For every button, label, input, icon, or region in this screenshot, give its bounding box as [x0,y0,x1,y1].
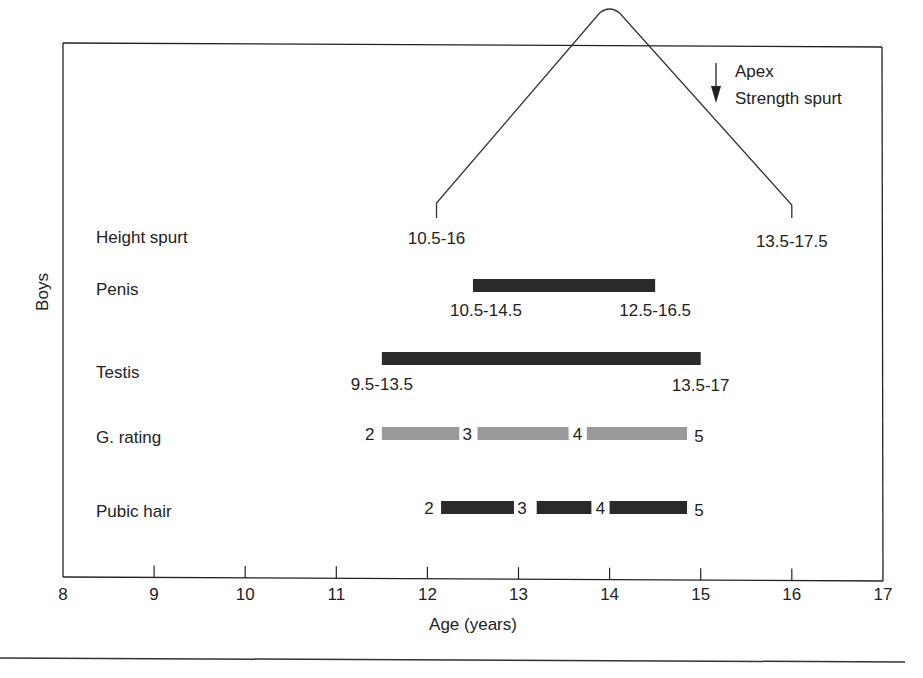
row-pubic-hair: Pubic hair2345 [96,499,704,521]
stage-label: 3 [463,425,472,444]
stage-label: 5 [694,501,703,520]
puberty-timeline-chart: 891011121314151617 Height spurt10.5-1613… [0,0,923,678]
x-axis-ticks: 891011121314151617 [58,565,892,604]
tick-label: 14 [600,585,619,604]
row-g-rating: G. rating2345 [96,425,704,447]
bottom-rule [0,658,905,662]
annotation-line1: Apex [735,62,774,81]
row-label: G. rating [96,428,161,447]
stage-bar [441,501,514,514]
row-testis: Testis9.5-13.513.5-17 [96,352,730,395]
row-penis: Penis10.5-14.512.5-16.5 [96,279,691,320]
tick-label: 8 [58,585,67,604]
tick-label: 12 [418,585,437,604]
stage-bar [537,501,592,514]
apex-annotation: ApexStrength spurt [711,62,842,108]
tick-label: 15 [691,585,710,604]
chart-rows: Height spurt10.5-1613.5-17.5Penis10.5-14… [96,9,828,521]
range-label: 10.5-16 [408,229,466,248]
stage-label: 5 [694,427,703,446]
row-label: Height spurt [96,228,188,247]
height-spurt-curve [437,9,792,218]
row-label: Penis [96,280,139,299]
stage-bar [610,501,687,514]
tick-label: 17 [873,585,892,604]
stage-bar [382,427,459,440]
annotation-line2: Strength spurt [735,89,842,108]
stage-label: 2 [365,425,374,444]
x-axis-label: Age (years) [429,615,517,634]
range-bar [473,279,655,292]
y-axis-label: Boys [33,273,52,311]
tick-label: 11 [327,585,345,604]
stage-label: 4 [573,425,582,444]
tick-label: 13 [509,585,528,604]
stage-label: 3 [517,499,526,518]
stage-label: 2 [424,499,433,518]
tick-label: 9 [149,585,158,604]
range-label: 9.5-13.5 [351,375,413,394]
row-label: Pubic hair [96,502,172,521]
stage-label: 4 [596,499,605,518]
arrow-head-icon [711,86,721,103]
range-label: 13.5-17.5 [756,232,828,251]
range-label: 12.5-16.5 [619,301,691,320]
range-label: 10.5-14.5 [450,301,522,320]
stage-bar [587,427,687,440]
row-label: Testis [96,363,139,382]
tick-label: 10 [236,585,255,604]
tick-label: 16 [782,585,801,604]
range-label: 13.5-17 [672,376,730,395]
range-bar [382,352,701,365]
stage-bar [478,427,569,440]
